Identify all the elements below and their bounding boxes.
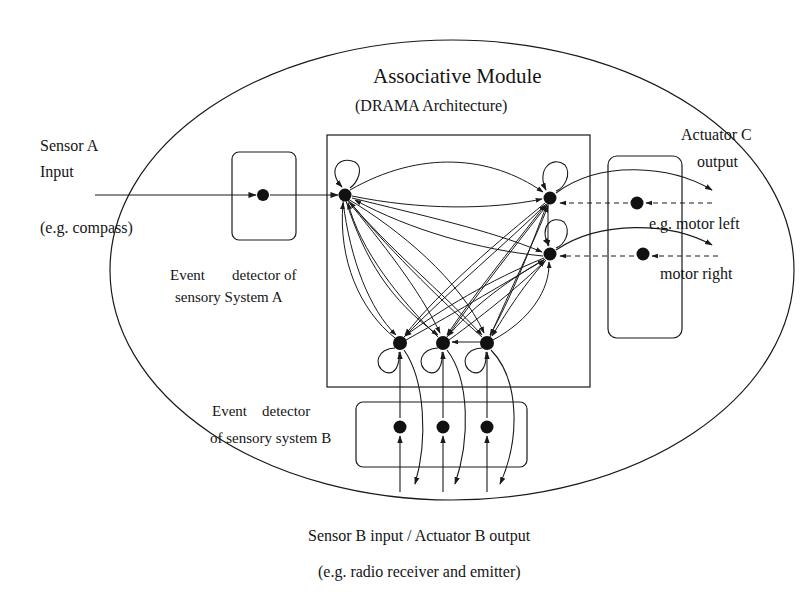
- node-c2: [544, 248, 557, 261]
- actuator-motor-left-node: [631, 197, 644, 210]
- node-b3: [480, 336, 494, 350]
- node-b2: [436, 336, 450, 350]
- network-box: [327, 135, 590, 387]
- motor-right-label: motor right: [660, 264, 732, 284]
- node-a1: [339, 189, 352, 202]
- event-detector-b-label-detector: detector: [262, 401, 310, 421]
- event-detector-b-label-event: Event: [212, 401, 247, 421]
- actuator-c-output-label: output: [697, 152, 738, 172]
- event-detector-b-box: [356, 402, 527, 467]
- actuator-c-box: [608, 156, 682, 338]
- motor-left-label: e.g. motor left: [649, 214, 740, 234]
- node-c1: [544, 192, 557, 205]
- sensor-a-label: Sensor A: [40, 136, 98, 156]
- sensor-a-example-label: (e.g. compass): [40, 218, 133, 238]
- detector-b-node-2: [437, 421, 450, 434]
- actuator-c-label: Actuator C: [681, 125, 752, 145]
- output-arc-motor-left: [556, 170, 712, 193]
- detector-a-node: [257, 189, 269, 201]
- detector-b-node-1: [394, 421, 407, 434]
- actuator-b-output-curves: [404, 350, 514, 484]
- drama-architecture-diagram: [0, 0, 810, 596]
- diagram-title: Associative Module: [373, 66, 542, 86]
- diagram-subtitle: (DRAMA Architecture): [355, 96, 507, 116]
- network-nodes: [339, 189, 557, 351]
- sensor-b-example-label: (e.g. radio receiver and emitter): [318, 562, 521, 582]
- actuator-motor-right-node: [637, 248, 650, 261]
- event-detector-b-label-system: of sensory system B: [210, 428, 331, 448]
- event-detector-a-label-detector: detector of: [232, 265, 297, 285]
- event-detector-a-label-event: Event: [170, 265, 205, 285]
- event-detector-a-label-system: sensory System A: [175, 287, 283, 307]
- network-connections: [342, 162, 549, 342]
- sensor-a-input-label: Input: [40, 162, 74, 182]
- node-b1: [393, 336, 407, 350]
- sensor-b-label: Sensor B input / Actuator B output: [308, 526, 530, 546]
- detector-b-node-3: [481, 421, 494, 434]
